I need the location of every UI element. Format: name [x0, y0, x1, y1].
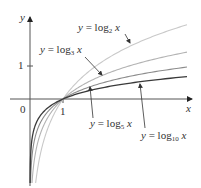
- label-log2-x: x: [115, 21, 120, 33]
- arrow-log10: [140, 84, 145, 128]
- arrow-log2: [125, 34, 130, 43]
- y-tick-label-1: 1: [18, 60, 24, 71]
- label-log2-base: 2: [109, 27, 113, 35]
- label-log5-y: y: [90, 117, 95, 129]
- label-log10: y = log10 x: [141, 130, 186, 141]
- label-log3-base: 3: [71, 49, 75, 57]
- label-log2: y = log2 x: [78, 22, 120, 33]
- label-log3-x: x: [77, 43, 82, 55]
- label-log10-y: y: [141, 129, 146, 141]
- label-log2-y: y: [78, 21, 83, 33]
- x-axis-label: x: [186, 103, 191, 114]
- label-log10-x: x: [181, 129, 186, 141]
- label-log5-eq: = log: [98, 117, 121, 129]
- label-log3-y: y: [40, 43, 45, 55]
- arrow-log5: [90, 87, 93, 118]
- label-log5-x: x: [127, 117, 132, 129]
- label-log5-base: 5: [121, 123, 125, 131]
- label-log3: y = log3 x: [40, 44, 82, 55]
- label-log10-eq: = log: [149, 129, 172, 141]
- label-log3-eq: = log: [48, 43, 71, 55]
- origin-label: 0: [20, 104, 26, 115]
- label-log10-base: 10: [172, 135, 179, 143]
- label-log5: y = log5 x: [90, 118, 132, 129]
- x-tick-label-1: 1: [60, 106, 66, 117]
- label-log2-eq: = log: [86, 21, 109, 33]
- y-axis-label: y: [20, 12, 25, 23]
